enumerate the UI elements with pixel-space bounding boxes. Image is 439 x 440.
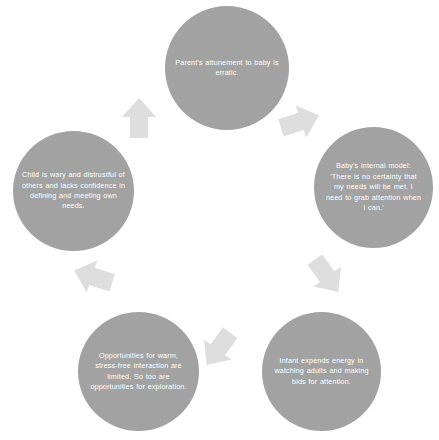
cycle-node-child-wary: Child is wary and distrustful of others … (13, 131, 134, 251)
block-arrow-icon-baby-to-infant (294, 243, 358, 307)
cycle-node-label: Parent's attunement to baby is erratic. (165, 58, 289, 79)
block-arrow-icon-child-to-parent (116, 96, 162, 142)
cycle-node-label: Opportunities for warm, stress-free inte… (78, 351, 199, 393)
cycle-node-infant-expends-energy: Infant expends energy in watching adults… (262, 312, 381, 431)
cycle-node-limited-opportunities: Opportunities for warm, stress-free inte… (78, 312, 199, 431)
block-arrow-icon-opportunities-to-child (65, 248, 123, 306)
cycle-diagram: Parent's attunement to baby is erratic. … (0, 0, 439, 440)
cycle-node-label: Baby's internal model: 'There is no cert… (314, 161, 433, 213)
cycle-node-label: Child is wary and distrustful of others … (13, 170, 134, 212)
cycle-node-baby-internal-model: Baby's internal model: 'There is no cert… (314, 127, 433, 248)
cycle-node-parent-attunement: Parent's attunement to baby is erratic. (165, 6, 289, 130)
cycle-node-label: Infant expends energy in watching adults… (262, 356, 381, 387)
